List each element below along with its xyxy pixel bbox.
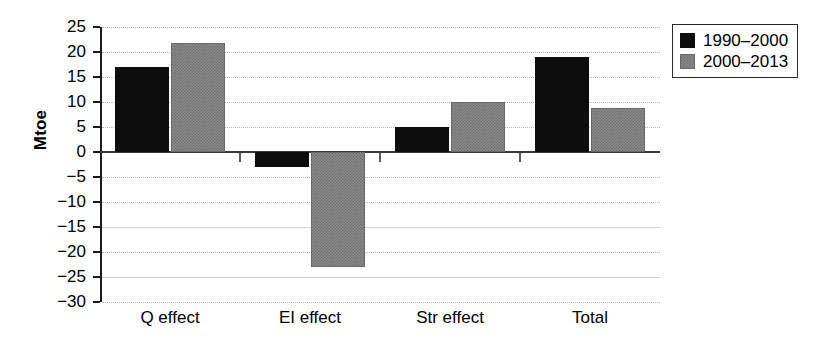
bar — [395, 127, 449, 152]
gridline — [102, 227, 660, 228]
gridline — [102, 277, 660, 278]
y-axis-tick-mark — [93, 301, 100, 303]
y-axis-tick-label: 10 — [34, 93, 86, 110]
y-axis-tick-mark — [93, 226, 100, 228]
legend: 1990–20002000–2013 — [672, 24, 798, 78]
y-axis-tick-mark — [93, 176, 100, 178]
bar — [451, 102, 505, 152]
y-axis-tick-mark — [93, 126, 100, 128]
plot-area — [100, 27, 660, 302]
y-axis-tick-mark — [93, 76, 100, 78]
y-axis-tick-label: 5 — [34, 118, 86, 135]
y-axis-tick-mark — [93, 201, 100, 203]
x-axis-category-label: EI effect — [240, 308, 380, 328]
category-tick-mark — [379, 153, 381, 162]
y-axis-tick-label: −30 — [34, 293, 86, 310]
category-tick-mark — [239, 153, 241, 162]
y-axis-tick-label: 25 — [34, 18, 86, 35]
y-axis-tick-label: −25 — [34, 268, 86, 285]
y-axis-tick-label: −5 — [34, 168, 86, 185]
y-axis-tick-label: −15 — [34, 218, 86, 235]
x-axis-category-label: Q effect — [100, 308, 240, 328]
gridline — [102, 177, 660, 178]
legend-swatch-black-icon — [680, 33, 695, 48]
bar — [115, 67, 169, 152]
category-tick-mark — [519, 153, 521, 162]
bar — [311, 152, 365, 267]
y-axis-tick-label: −20 — [34, 243, 86, 260]
legend-entry: 1990–2000 — [680, 30, 788, 51]
y-axis-tick-labels: 2520151050−5−10−15−20−25−30 — [34, 0, 86, 343]
y-axis-tick-label: 20 — [34, 43, 86, 60]
y-axis-tick-mark — [93, 276, 100, 278]
legend-label: 2000–2013 — [703, 53, 788, 70]
gridline — [102, 252, 660, 253]
x-axis-category-label: Str effect — [380, 308, 520, 328]
gridline — [102, 302, 660, 303]
y-axis-tick-mark — [93, 26, 100, 28]
bar — [255, 152, 309, 167]
bar — [171, 43, 225, 152]
gridline — [102, 27, 660, 28]
y-axis-tick-mark — [93, 251, 100, 253]
legend-label: 1990–2000 — [703, 32, 788, 49]
bar — [535, 57, 589, 152]
legend-swatch-gray-icon — [680, 54, 695, 69]
y-axis-tick-mark — [93, 51, 100, 53]
legend-entry: 2000–2013 — [680, 51, 788, 72]
y-axis-tick-mark — [93, 101, 100, 103]
bar-chart: Mtoe 2520151050−5−10−15−20−25−30 Q effec… — [0, 0, 825, 343]
bar — [591, 108, 645, 152]
gridline — [102, 202, 660, 203]
x-axis-category-label: Total — [520, 308, 660, 328]
y-axis-tick-mark — [93, 151, 100, 153]
y-axis-tick-label: 0 — [34, 143, 86, 160]
y-axis-line — [100, 27, 102, 302]
y-axis-tick-label: −10 — [34, 193, 86, 210]
y-axis-tick-label: 15 — [34, 68, 86, 85]
